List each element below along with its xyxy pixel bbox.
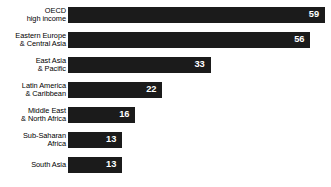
chart-plot-area: OECD high income 59 Eastern Europe & Cen… [0, 7, 331, 182]
bar-value-label: 33 [194, 60, 204, 69]
category-label: Latin America & Caribbean [0, 82, 66, 98]
bar: 16 [68, 107, 135, 123]
bar: 33 [68, 57, 211, 73]
bar-track: 56 [68, 32, 331, 48]
category-label: South Asia [0, 161, 66, 169]
chart-row: OECD high income 59 [0, 7, 331, 23]
bar-value-label: 13 [106, 135, 116, 144]
chart-row: Eastern Europe & Central Asia 56 [0, 32, 331, 48]
bar: 56 [68, 32, 310, 48]
chart-row: Latin America & Caribbean 22 [0, 82, 331, 98]
bar-chart: OECD high income 59 Eastern Europe & Cen… [0, 0, 331, 187]
bar-track: 13 [68, 157, 331, 173]
category-label: Eastern Europe & Central Asia [0, 32, 66, 48]
bar-track: 59 [68, 7, 331, 23]
chart-row: Sub-Saharan Africa 13 [0, 132, 331, 148]
category-label: OECD high income [0, 7, 66, 23]
bar-track: 16 [68, 107, 331, 123]
bar: 13 [68, 132, 122, 148]
category-label: Middle East & North Africa [0, 107, 66, 123]
category-label: East Asia & Pacific [0, 57, 66, 73]
bar-value-label: 59 [309, 10, 319, 19]
category-label: Sub-Saharan Africa [0, 132, 66, 148]
bar: 59 [68, 7, 325, 23]
bar-track: 22 [68, 82, 331, 98]
chart-row: Middle East & North Africa 16 [0, 107, 331, 123]
bar-track: 33 [68, 57, 331, 73]
bar-value-label: 16 [119, 110, 129, 119]
bar: 22 [68, 82, 162, 98]
bar: 13 [68, 157, 122, 173]
chart-row: East Asia & Pacific 33 [0, 57, 331, 73]
bar-value-label: 22 [146, 85, 156, 94]
bar-value-label: 13 [106, 160, 116, 169]
bar-track: 13 [68, 132, 331, 148]
chart-row: South Asia 13 [0, 157, 331, 173]
bar-value-label: 56 [294, 35, 304, 44]
